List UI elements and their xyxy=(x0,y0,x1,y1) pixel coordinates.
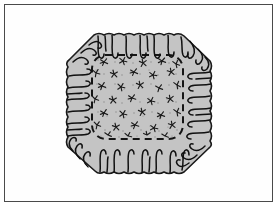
gather-bot-8 xyxy=(107,157,108,172)
gather-left-8 xyxy=(67,93,82,94)
gather-right-8 xyxy=(196,114,211,115)
cushion-illustration xyxy=(0,0,279,208)
gather-top-9 xyxy=(147,36,148,51)
figure-root: Gathered ruffled octagonal cushion cover xyxy=(0,0,279,208)
gather-bot-9 xyxy=(149,157,150,172)
gather-top-8 xyxy=(105,36,106,51)
gather-left-7 xyxy=(67,129,82,130)
gather-right-7 xyxy=(196,78,211,79)
